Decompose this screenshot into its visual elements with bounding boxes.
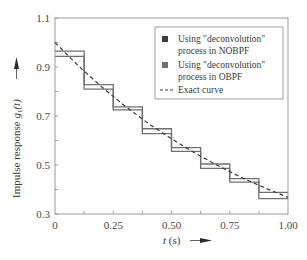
x-tick-label: 0.75 xyxy=(220,219,240,231)
legend-label-exact: Exact curve xyxy=(178,85,223,95)
y-axis-label-arg: (t) xyxy=(10,99,23,110)
y-tick-labels: 0.30.50.70.91.1 xyxy=(36,12,50,220)
legend-marker-obpf xyxy=(162,62,168,68)
x-tick-label: 0.25 xyxy=(104,219,124,231)
legend-marker-nobpf xyxy=(162,36,168,42)
x-axis-arrow-icon xyxy=(200,238,212,243)
y-tick-label: 1.1 xyxy=(36,12,50,24)
y-tick-label: 0.7 xyxy=(36,110,50,122)
legend: Using "deconvolution" process in NOBPF U… xyxy=(155,27,283,99)
x-tick-label: 1.00 xyxy=(278,219,298,231)
svg-text:Impulse response g1(t): Impulse response g1(t) xyxy=(10,99,24,198)
svg-text:t (s): t (s) xyxy=(163,234,181,247)
y-tick-label: 0.5 xyxy=(36,159,50,171)
x-axis-label: t (s) xyxy=(163,234,212,247)
chart: 00.250.500.751.00 0.30.50.70.91.1 Using … xyxy=(0,0,307,260)
legend-label-obpf-line2: process in OBPF xyxy=(178,72,242,82)
y-tick-label: 0.9 xyxy=(36,61,50,73)
x-tick-label: 0.50 xyxy=(162,219,182,231)
y-axis-label: Impulse response g1(t) xyxy=(10,57,24,198)
y-tick-label: 0.3 xyxy=(36,208,50,220)
legend-label-obpf-line1: Using "deconvolution" xyxy=(178,60,265,70)
y-axis-label-main: Impulse response xyxy=(10,119,22,198)
x-tick-label: 0 xyxy=(52,219,58,231)
x-axis-label-unit: (s) xyxy=(166,234,181,247)
y-axis-arrow-icon xyxy=(14,57,19,69)
x-tick-labels: 00.250.500.751.00 xyxy=(52,219,298,231)
legend-label-nobpf-line2: process in NOBPF xyxy=(178,46,249,56)
legend-label-nobpf-line1: Using "deconvolution" xyxy=(178,34,265,44)
